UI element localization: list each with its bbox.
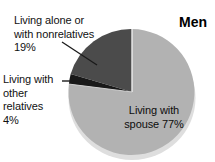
chart-title: Men (179, 14, 207, 30)
slice-label-other-relatives: Living with other relatives 4% (3, 73, 69, 127)
slice-label-living-alone: Living alone or with nonrelatives 19% (14, 14, 118, 55)
slice-label-living-with-spouse: Living with spouse 77% (112, 104, 196, 131)
pie-chart-figure: Men Living alone or with nonrelatives 19… (0, 0, 215, 162)
